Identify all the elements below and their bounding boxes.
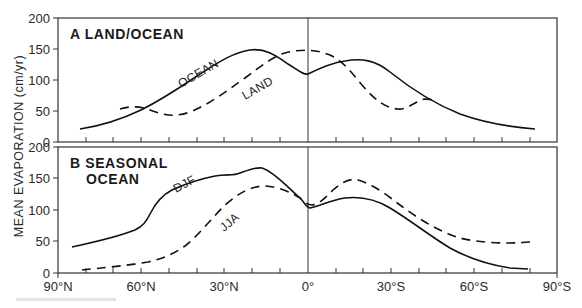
faded-caption [16,298,116,301]
xtick-90s: 90°S [543,279,572,294]
xtick-30n: 30°N [209,279,238,294]
panel-a-ocean-label: OCEAN [176,56,222,90]
panel-b-jja-curve [82,179,530,270]
panel-a-yticks [53,18,58,142]
panel-b-ytick-50: 50 [36,234,50,249]
panel-b-jja-label: JJA [217,210,242,234]
panel-b-title-line1: B SEASONAL [70,155,168,171]
xtick-60s: 60°S [460,279,489,294]
panel-b-djf-label: DJF [171,172,198,195]
panel-b-djf-curve [72,168,528,269]
panel-a: 200 150 100 50 0 A LAND/OCEAN [28,11,557,150]
panel-b-yticks [53,147,58,273]
panel-a-land-curve [120,50,435,115]
xtick-0: 0° [302,279,314,294]
panel-b-title-line2: OCEAN [86,171,140,187]
panel-a-title: A LAND/OCEAN [70,26,184,42]
xtick-30s: 30°S [377,279,406,294]
y-axis-label: MEAN EVAPORATION (cm/yr) [12,55,26,237]
xtick-90n: 90°N [43,279,72,294]
panel-b-ytick-150: 150 [28,171,50,186]
panel-b: 200 150 100 50 0 B SEASONAL OCEAN [28,140,557,281]
evaporation-figure: MEAN EVAPORATION (cm/yr) 200 150 100 50 … [0,0,582,308]
panel-a-ytick-150: 150 [28,42,50,57]
panel-a-ytick-200: 200 [28,11,50,26]
panel-b-ytick-100: 100 [28,203,50,218]
panel-a-ytick-50: 50 [36,104,50,119]
panel-b-ytick-200: 200 [28,140,50,155]
xtick-60n: 60°N [126,279,155,294]
panel-a-ytick-100: 100 [28,73,50,88]
